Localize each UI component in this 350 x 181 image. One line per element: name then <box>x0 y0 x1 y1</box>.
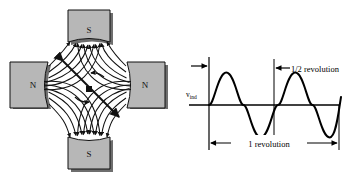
voltage-axis-label-sub: ind <box>190 94 197 100</box>
pole-label-bottom: S <box>86 149 91 159</box>
pole-label-right: N <box>142 80 149 90</box>
voltage-waveform-plot: vind 1/2 revolution 1 revolution <box>178 0 350 181</box>
pole-label-left: N <box>30 80 37 90</box>
figure-root: S N N S <box>0 0 350 181</box>
voltage-axis-label: vind <box>186 90 197 100</box>
magnet-pole-bottom: S <box>68 137 110 169</box>
waveform-svg: vind 1/2 revolution 1 revolution <box>178 0 350 181</box>
magnet-pole-left: N <box>10 62 48 108</box>
half-revolution-label: 1/2 revolution <box>291 64 340 74</box>
pole-label-top: S <box>86 25 91 35</box>
one-revolution-label: 1 revolution <box>248 139 290 149</box>
generator-diagram: S N N S <box>0 0 178 181</box>
magnet-pole-right: N <box>127 62 165 108</box>
generator-svg: S N N S <box>0 0 178 181</box>
rotor-shaft-dot <box>86 86 92 92</box>
magnet-pole-top: S <box>68 10 110 42</box>
